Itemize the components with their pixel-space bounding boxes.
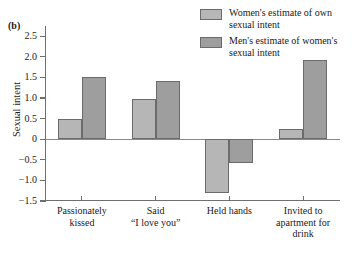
y-tick-label: 0.5 — [25, 114, 38, 124]
bar — [132, 99, 156, 139]
bar — [279, 129, 303, 139]
y-tick — [40, 77, 46, 78]
y-axis-title: Sexual intent — [11, 63, 22, 157]
y-tick — [40, 97, 46, 98]
bar — [205, 139, 229, 193]
figure-panel-b: (b) Sexual intent Women's estimate of ow… — [0, 0, 355, 259]
y-tick-label: 0 — [32, 134, 37, 144]
x-axis-line — [45, 200, 340, 201]
y-tick-label: 2.5 — [25, 31, 38, 41]
panel-label: (b) — [8, 20, 20, 31]
plot-area: 2.52.01.51.00.50−0.5−1.0−1.5 — [45, 26, 340, 201]
y-tick — [40, 36, 46, 37]
y-tick — [40, 180, 46, 181]
bar — [82, 77, 106, 139]
y-tick-label: −1.0 — [19, 175, 37, 185]
y-tick-label: 1.0 — [25, 93, 38, 103]
y-tick-label: −1.5 — [19, 196, 37, 206]
y-tick-label: −0.5 — [19, 155, 37, 165]
y-tick-label: 2.0 — [25, 52, 38, 62]
y-tick — [40, 200, 46, 201]
x-tick — [81, 196, 82, 201]
x-axis-category-label: Invited to apartment for drink — [266, 205, 340, 240]
x-axis-category-label: Said “I love you” — [119, 205, 193, 228]
y-tick — [40, 139, 46, 140]
y-tick — [40, 159, 46, 160]
bar — [156, 81, 180, 139]
y-tick — [40, 118, 46, 119]
x-axis-category-label: Held hands — [193, 205, 267, 217]
bar — [58, 119, 82, 140]
y-tick-label: 1.5 — [25, 72, 38, 82]
y-tick — [40, 56, 46, 57]
x-tick — [155, 196, 156, 201]
x-tick — [303, 196, 304, 201]
legend-swatch-women-icon — [200, 9, 222, 20]
x-axis-category-label: Passionately kissed — [45, 205, 119, 228]
x-tick — [229, 196, 230, 201]
bar — [303, 60, 327, 139]
y-axis-line — [45, 26, 46, 201]
bar — [229, 139, 253, 162]
